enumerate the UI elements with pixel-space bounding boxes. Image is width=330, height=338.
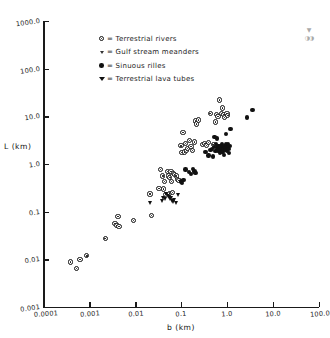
data-point xyxy=(215,136,219,140)
data-point xyxy=(228,127,232,131)
data-point xyxy=(116,224,121,229)
data-point xyxy=(211,154,215,158)
data-point-layer xyxy=(0,0,330,338)
data-point xyxy=(115,214,120,219)
data-point xyxy=(224,132,228,136)
data-point xyxy=(131,218,136,223)
data-point xyxy=(193,171,197,175)
data-point xyxy=(162,179,167,184)
data-point xyxy=(192,139,197,144)
corner-stamp-line2: ◑◑ xyxy=(300,34,318,42)
data-point xyxy=(208,111,213,116)
data-point xyxy=(158,167,163,172)
data-point xyxy=(160,173,165,178)
data-point xyxy=(196,117,201,122)
data-point xyxy=(169,179,174,184)
data-point xyxy=(148,201,152,205)
data-point xyxy=(74,266,79,271)
data-point xyxy=(222,153,226,157)
data-point xyxy=(149,213,154,218)
data-point xyxy=(228,144,232,148)
corner-stamp-line1: ▼ xyxy=(300,26,318,34)
data-point xyxy=(187,138,192,143)
data-point xyxy=(220,105,225,110)
data-point xyxy=(161,186,166,191)
data-point xyxy=(227,151,231,155)
figure-log-log-scatter: 1000.0 100.0 10.0 1.0 0.1 0.01 0.001 0.0… xyxy=(0,0,330,338)
data-point xyxy=(147,191,152,196)
data-point xyxy=(180,130,185,135)
data-point xyxy=(181,178,185,182)
data-point xyxy=(250,108,254,112)
data-point xyxy=(225,113,230,118)
data-point xyxy=(190,148,195,153)
data-point xyxy=(77,257,82,262)
data-point xyxy=(213,119,218,124)
data-point xyxy=(174,201,178,205)
corner-stamp-artifact: ▼ ◑◑ xyxy=(300,26,318,52)
data-point xyxy=(84,253,89,258)
data-point xyxy=(217,97,222,102)
data-point xyxy=(245,115,249,119)
data-point xyxy=(68,259,73,264)
data-point xyxy=(103,236,108,241)
data-point xyxy=(176,193,180,197)
